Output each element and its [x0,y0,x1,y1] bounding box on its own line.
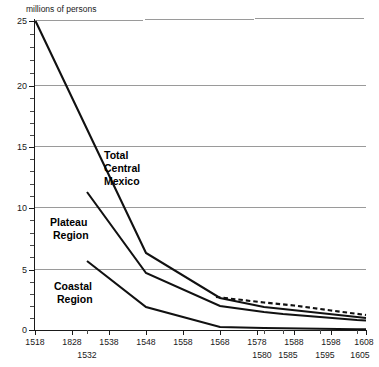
x-tick-label-1518: 1518 [25,337,44,347]
annotation-coastal-region-line1: Coastal [54,280,92,292]
y-axis-group: 25 20 15 10 5 0 [17,16,35,335]
annotation-plateau-region-line2: Region [53,229,89,241]
series-line-plateau-region [87,192,366,321]
x-tick-label-1532: 1532 [77,350,96,360]
x-tick-label-1578: 1578 [247,337,266,347]
y-tick-label-20: 20 [17,81,27,91]
x-tick-label-1598: 1598 [321,337,340,347]
series-line-total-central-mexico [36,21,367,318]
x-tick-label-1538: 1538 [99,337,118,347]
chart-canvas: 25 20 15 10 5 0 millions of persons [0,0,379,367]
x-tick-label-1558: 1558 [173,337,192,347]
y-tick-label-10: 10 [17,203,27,213]
annotation-total-central-mexico-line1: Total [104,149,128,161]
y-tick-label-5: 5 [22,265,27,275]
x-axis-group: 1518 1828 1538 1548 1558 1568 1578 1588 … [25,330,373,360]
x-tick-label-1605: 1605 [350,350,369,360]
y-tick-label-15: 15 [17,142,27,152]
x-tick-label-1595: 1595 [315,350,334,360]
gridline-25 [34,18,366,21]
gridline-5 [34,269,366,270]
annotation-total-central-mexico-line2: Central [104,162,140,174]
series-line-projected-total [216,297,366,315]
y-tick-label-0: 0 [22,325,27,335]
gridline-10 [34,207,366,208]
gridline-15 [34,146,366,147]
x-tick-label-1608: 1608 [354,337,373,347]
annotation-plateau-region-line1: Plateau [50,216,87,228]
population-decline-chart: 25 20 15 10 5 0 millions of persons [0,0,379,367]
x-tick-label-1585: 1585 [278,350,297,360]
x-tick-label-1528: 1828 [62,337,81,347]
y-axis-title: millions of persons [26,4,96,14]
y-tick-label-25: 25 [17,16,27,26]
gridline-20 [34,85,366,86]
annotations-group: Total Central Mexico Plateau Region Coas… [50,149,140,305]
annotation-total-central-mexico-line3: Mexico [104,175,140,187]
annotation-coastal-region-line2: Region [57,293,93,305]
x-tick-label-1580: 1580 [252,350,271,360]
x-tick-label-1568: 1568 [210,337,229,347]
x-tick-label-1548: 1548 [136,337,155,347]
series-line-coastal-region [87,261,366,329]
x-tick-label-1588: 1588 [284,337,303,347]
